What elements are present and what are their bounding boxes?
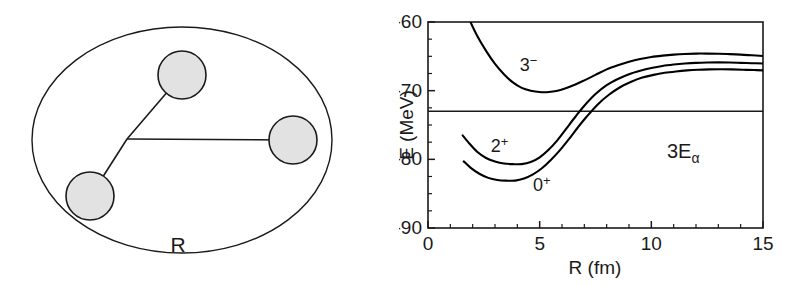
x-tick-label: 0 [423, 233, 434, 254]
x-axis-label: R (fm) [569, 257, 622, 278]
potential-curves-group [463, 5, 763, 181]
cluster-diagram-panel: R [0, 0, 399, 285]
x-tick-label: 5 [534, 233, 545, 254]
y-tick-label: -90 [399, 217, 422, 238]
x-axis-ticks: 051015 [423, 221, 774, 254]
potential-curve-3- [463, 5, 763, 92]
energy-plot-panel: -90-80-70-60 051015 3−2+0+ R (fm) E (MeV… [399, 0, 798, 285]
x-tick-label: 15 [752, 233, 773, 254]
threshold-label: 3Eα [667, 140, 700, 166]
curve-label-0+: 0+ [533, 173, 551, 195]
cluster-diagram-svg: R [0, 0, 399, 285]
y-tick-label: -60 [399, 11, 422, 32]
bond-vertex-to-right [127, 139, 293, 140]
y-axis-label: E (MeV) [399, 90, 417, 160]
alpha-particle-bottom [66, 172, 114, 220]
curve-labels-group: 3−2+0+ [491, 53, 551, 194]
curve-label-3-: 3− [520, 53, 538, 75]
alpha-particle-right [269, 116, 317, 164]
x-tick-label: 10 [641, 233, 662, 254]
energy-plot-svg: -90-80-70-60 051015 3−2+0+ R (fm) E (MeV… [399, 0, 798, 285]
distance-label-R: R [170, 233, 185, 256]
alpha-particle-top [158, 51, 206, 99]
curve-label-2+: 2+ [491, 134, 509, 156]
figure-root: R -90-80-70-60 051015 3−2+0+ R (fm) E (M… [0, 0, 798, 285]
